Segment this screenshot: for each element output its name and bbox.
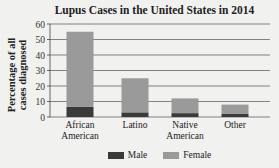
y-tick-label: 20 — [36, 82, 46, 92]
x-category-label: American — [166, 131, 204, 141]
bar-male — [67, 107, 94, 117]
bar-female — [172, 98, 199, 113]
legend-item-female: Female — [163, 150, 211, 160]
bar-female — [122, 78, 149, 112]
legend-item-male: Male — [108, 150, 148, 160]
x-category-label: Native — [172, 120, 197, 130]
x-category-label: Latino — [123, 120, 148, 130]
y-tick-label: 10 — [36, 97, 46, 107]
bar-female — [67, 32, 94, 107]
x-category-label: African — [65, 120, 94, 130]
y-tick-label: 30 — [36, 66, 46, 76]
bar-chart: 0102030405060AfricanAmericanLatinoNative… — [0, 0, 279, 168]
x-category-label: American — [61, 131, 99, 141]
bar-female — [222, 105, 249, 114]
y-tick-label: 0 — [40, 113, 45, 123]
bar-male — [122, 112, 149, 117]
bar-male — [222, 114, 249, 117]
y-tick-label: 40 — [36, 51, 46, 61]
legend-swatch-male — [108, 152, 124, 159]
y-tick-label: 60 — [36, 20, 46, 30]
y-tick-label: 50 — [36, 35, 46, 45]
legend-swatch-female — [163, 152, 179, 159]
x-category-label: Other — [224, 120, 246, 130]
legend: Male Female — [0, 150, 279, 160]
bar-male — [172, 113, 199, 117]
